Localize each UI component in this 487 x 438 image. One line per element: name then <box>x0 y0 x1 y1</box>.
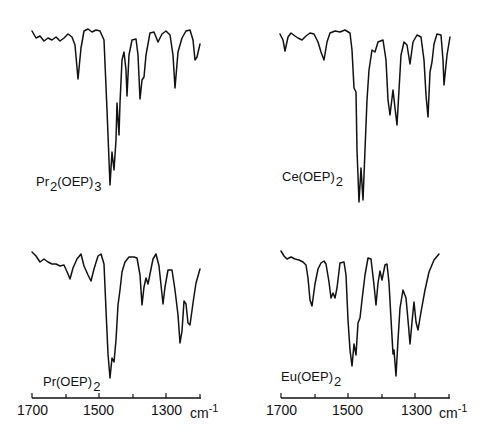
tick-label-1300-left: 1300 <box>151 403 182 417</box>
tick-label-1500-left: 1500 <box>83 403 114 417</box>
spectrum-trace-proep2 <box>32 252 200 378</box>
label-subscript: 2 <box>336 174 343 189</box>
axis-unit-right: cm-1 <box>439 403 467 420</box>
label-proep2: Pr(OEP)2 <box>43 375 100 393</box>
ir-spectra-figure <box>0 0 487 438</box>
label-text: Pr(OEP) <box>43 374 92 389</box>
label-text: Pr <box>36 174 49 189</box>
tick-label-1700-right: 1700 <box>266 403 297 417</box>
tick-label-1300-right: 1300 <box>401 403 432 417</box>
axis-unit-left: cm-1 <box>190 403 218 420</box>
unit-text: cm <box>439 405 458 421</box>
spectrum-trace-euoep2 <box>281 251 439 376</box>
label-text: (OEP) <box>57 174 93 189</box>
label-text: Eu(OEP) <box>281 369 333 384</box>
label-subscript: 2 <box>93 379 100 394</box>
tick-label-1500-right: 1500 <box>332 403 363 417</box>
label-pr2oep3: Pr2(OEP)3 <box>36 175 102 193</box>
unit-exponent: -1 <box>209 402 219 414</box>
label-subscript: 3 <box>94 179 101 194</box>
tick-label-1700-left: 1700 <box>17 403 48 417</box>
unit-exponent: -1 <box>458 402 468 414</box>
label-ceoep2: Ce(OEP)2 <box>282 170 343 188</box>
unit-text: cm <box>190 405 209 421</box>
x-axis-left <box>32 393 201 398</box>
label-text: Ce(OEP) <box>282 169 335 184</box>
spectrum-trace-pr2oep3 <box>32 29 200 185</box>
label-subscript: 2 <box>334 374 341 389</box>
label-euoep2: Eu(OEP)2 <box>281 370 341 388</box>
x-axis-right <box>281 393 450 398</box>
